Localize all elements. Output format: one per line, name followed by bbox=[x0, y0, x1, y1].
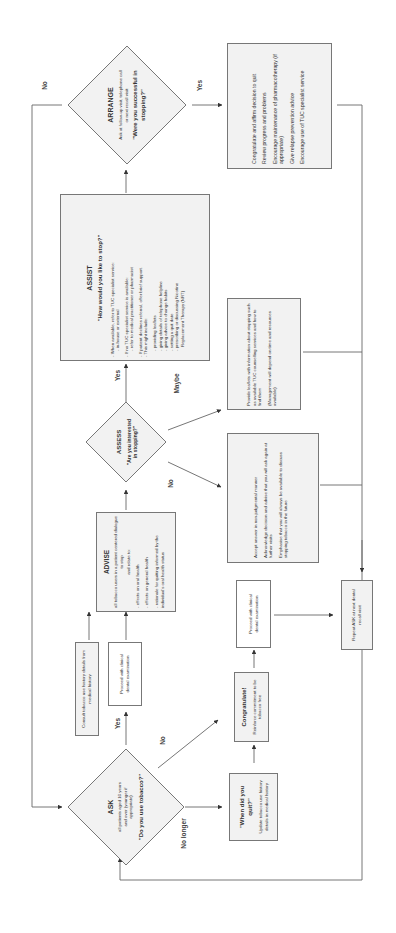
advise-title: ADVISE bbox=[102, 516, 111, 608]
maybe-box: Provide leaflets with information about … bbox=[227, 298, 301, 410]
assist-box: ASSIST "How would you like to stop?" - W… bbox=[60, 194, 210, 361]
proceed-box-2: Proceed with clinical dental examination bbox=[236, 580, 271, 648]
edge-label-arrange-no: No bbox=[41, 81, 48, 90]
proceed-2-text: Proceed with clinical dental examination bbox=[248, 588, 259, 640]
arrange-question: "Were you successful in stopping?" bbox=[133, 60, 148, 150]
edge-label-arrange-yes: Yes bbox=[196, 80, 203, 91]
congratulate-box: Congratulate! Reinforce commitment to be… bbox=[234, 672, 269, 742]
assist-list: - When available, refer to TUC specialis… bbox=[109, 199, 185, 357]
assess-diamond: ASSESS "Are you interested in stopping?" bbox=[86, 402, 166, 482]
success-item: Review progress and problems bbox=[261, 48, 267, 164]
ask-title: ASK bbox=[106, 772, 115, 842]
advise-line: - rationale for quitting informed by the… bbox=[154, 516, 165, 608]
advise-line: - effects on oral health bbox=[135, 516, 141, 608]
connector-lines bbox=[0, 0, 396, 933]
ask-diamond: ASK all patients aged 16 years and over … bbox=[68, 749, 184, 865]
proceed-box-1: Proceed with clinical dental examination bbox=[108, 642, 142, 706]
advise-box: ADVISE all tobacco users in a patient ce… bbox=[96, 512, 176, 612]
ask-question: "Do you use tobacco?" bbox=[138, 772, 146, 842]
no-item: Accept answer in non-judgmental manner bbox=[253, 438, 259, 558]
ask-subtitle: all patients aged 16 years and over (you… bbox=[117, 780, 134, 834]
no-box: Accept answer in non-judgmental manner A… bbox=[227, 433, 319, 563]
assist-line: - refer to medical practitioner or pharm… bbox=[129, 199, 135, 357]
edge-label-ask-yes: Yes bbox=[114, 718, 121, 729]
success-item: Give relapse prevention advice bbox=[288, 48, 294, 164]
no-item: Acknowledge decision and advise that you… bbox=[263, 438, 274, 558]
edge-label-assess-yes: Yes bbox=[114, 370, 121, 381]
consult-text: Consult tobacco use history details from… bbox=[81, 645, 92, 733]
assess-title: ASSESS bbox=[115, 416, 124, 468]
success-item: Encourage maintenance of pharmacotherapy… bbox=[271, 48, 284, 164]
quit-question: "When did you quit?" bbox=[238, 778, 253, 836]
maybe-item: (Management will depend on time and reso… bbox=[267, 302, 278, 406]
success-box: Congratulate and affirm decision to quit… bbox=[227, 43, 332, 169]
success-item: Congratulate and affirm decision to quit bbox=[250, 48, 256, 164]
repeat-text: Repeat ASK at next dental recall visit bbox=[351, 587, 362, 643]
maybe-item: Provide leaflets with information about … bbox=[246, 302, 263, 406]
advise-line: - effects on general health bbox=[145, 516, 151, 608]
congratulate-title: Congratulate! bbox=[241, 676, 249, 738]
advise-relate: and relate to: bbox=[127, 516, 133, 608]
arrange-diamond: ARRANGE Ask at follow-up visit, telephon… bbox=[68, 46, 186, 164]
assist-question: "How would you like to stop?" bbox=[97, 199, 105, 357]
edge-label-assess-no: No bbox=[167, 479, 174, 488]
no-item: Emphasise that you will always be availa… bbox=[278, 438, 289, 558]
advise-intro: all tobacco users in a patient centered … bbox=[113, 516, 124, 608]
assess-question: "Are you interested in stopping?" bbox=[126, 416, 138, 468]
arrange-title: ARRANGE bbox=[106, 60, 115, 150]
arrange-subtitle: Ask at follow-up visit, telephone call o… bbox=[118, 70, 129, 140]
assist-line: - in-house or external bbox=[115, 199, 121, 357]
quit-box: "When did you quit?" Update tobacco use … bbox=[229, 773, 278, 841]
assist-line: Replacement Therapy (NRT) bbox=[180, 199, 186, 357]
assist-title: ASSIST bbox=[85, 199, 94, 357]
edge-label-assess-maybe: Maybe bbox=[173, 373, 180, 393]
assist-line: - This might include: bbox=[143, 199, 149, 357]
consult-box: Consult tobacco use history details from… bbox=[75, 642, 99, 736]
quit-text: Update tobacco use history details in me… bbox=[257, 778, 268, 836]
congratulate-text: Reinforce commitment to be tobacco free bbox=[251, 676, 262, 738]
edge-label-ask-no: No bbox=[159, 736, 166, 745]
proceed-1-text: Proceed with clinical dental examination bbox=[119, 648, 130, 700]
repeat-box: Repeat ASK at next dental recall visit bbox=[341, 580, 373, 650]
success-item: Encourage use of TUC specialist service bbox=[298, 48, 304, 164]
